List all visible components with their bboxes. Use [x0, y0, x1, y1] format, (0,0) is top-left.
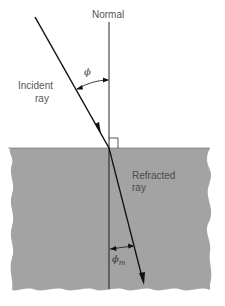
- refracting-medium: [10, 148, 212, 290]
- incident-ray-label-line1: Incident: [18, 80, 53, 91]
- right-angle-marker: [109, 138, 118, 148]
- refracted-ray-label-line2: ray: [132, 182, 146, 193]
- angle-phi-arrowhead-left-icon: [76, 85, 83, 90]
- incident-ray-label-line2: ray: [35, 93, 49, 104]
- angle-phi-m-label: ϕm: [112, 253, 125, 267]
- incident-ray-arrowhead-icon: [95, 122, 101, 134]
- angle-phi-m-base: ϕ: [112, 253, 119, 264]
- refracted-ray-label-line1: Refracted: [132, 170, 175, 181]
- normal-label: Normal: [92, 9, 124, 20]
- angle-phi-m-subscript: m: [119, 259, 126, 267]
- angle-phi-arrowhead-right-icon: [103, 78, 109, 83]
- angle-phi-label: ϕ: [84, 66, 91, 77]
